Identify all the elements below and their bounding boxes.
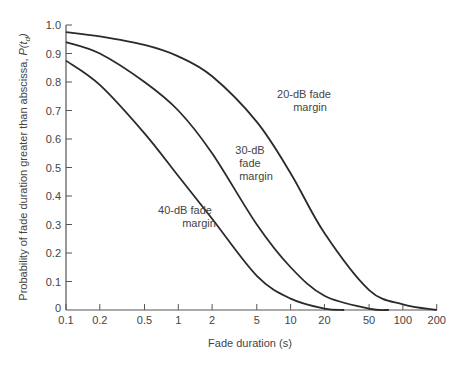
- annotation-30db: 30-dBfademargin: [235, 144, 272, 182]
- y-tick-label: 0.3: [46, 219, 61, 231]
- curve-30db: [66, 42, 389, 310]
- y-tick-label: 0.1: [46, 276, 61, 288]
- y-tick-label: 0.8: [46, 76, 61, 88]
- y-tick-label: 0.9: [46, 48, 61, 60]
- x-tick-label: 50: [363, 314, 375, 326]
- x-tick-label: 0.1: [58, 314, 73, 326]
- y-tick-label: 1.0: [46, 19, 61, 31]
- y-axis-title: Probability of fade duration greater tha…: [17, 33, 32, 301]
- annotation-40db: 40-dB fademargin: [158, 204, 216, 229]
- x-tick-label: 0.5: [137, 314, 152, 326]
- y-tick-label: 0.7: [46, 105, 61, 117]
- annotation-20db: 20-dB fademargin: [277, 88, 331, 113]
- fade-duration-chart: 0.10.20.512510205010020000.10.20.30.40.5…: [0, 0, 463, 367]
- y-tick-label: 0.4: [46, 190, 61, 202]
- y-tick-label: 0.2: [46, 247, 61, 259]
- x-tick-label: 200: [428, 314, 446, 326]
- annotations: 20-dB fademargin30-dBfademargin40-dB fad…: [158, 88, 331, 229]
- y-tick-label: 0: [55, 302, 61, 314]
- x-tick-label: 2: [209, 314, 215, 326]
- x-tick-label: 5: [254, 314, 260, 326]
- x-axis-title: Fade duration (s): [208, 337, 292, 349]
- x-tick-label: 100: [394, 314, 412, 326]
- y-tick-label: 0.5: [46, 162, 61, 174]
- x-tick-label: 20: [318, 314, 330, 326]
- x-tick-label: 10: [284, 314, 296, 326]
- x-tick-label: 0.2: [92, 314, 107, 326]
- y-tick-label: 0.6: [46, 133, 61, 145]
- x-tick-label: 1: [175, 314, 181, 326]
